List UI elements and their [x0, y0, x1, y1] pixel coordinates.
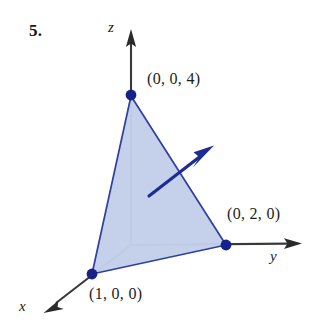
- plane-triangle: [92, 96, 226, 274]
- point-label-z-intercept: (0, 0, 4): [147, 70, 200, 88]
- point-label-y-intercept: (0, 2, 0): [227, 205, 280, 223]
- vertex-dot-020: [221, 240, 232, 251]
- vertex-dot-100: [87, 269, 98, 280]
- point-label-x-intercept: (1, 0, 0): [89, 285, 142, 303]
- coordinate-diagram-svg: [0, 0, 317, 329]
- x-axis-arrowhead: [44, 301, 64, 314]
- problem-number: 5.: [29, 21, 42, 41]
- figure-container: 5. (0, 0, 4) (0, 2, 0) (1, 0, 0) z y x: [0, 0, 317, 329]
- axis-label-y: y: [270, 248, 277, 265]
- axis-label-x: x: [19, 298, 26, 315]
- normal-vector-arrowhead: [193, 146, 214, 168]
- vertex-dot-004: [126, 90, 137, 101]
- axis-label-z: z: [108, 19, 114, 36]
